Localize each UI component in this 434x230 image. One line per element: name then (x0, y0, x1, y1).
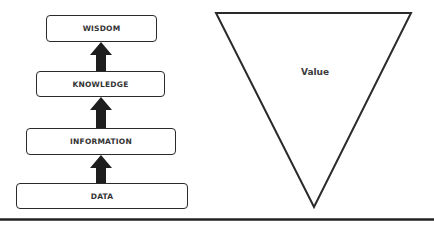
level-label: DATA (91, 192, 114, 201)
level-box-data: DATA (16, 183, 188, 209)
level-box-information: INFORMATION (26, 128, 176, 155)
arrow-up-icon (90, 42, 112, 71)
level-box-knowledge: KNOWLEDGE (36, 71, 165, 97)
level-label: WISDOM (83, 24, 121, 33)
value-label: Value (290, 67, 340, 77)
arrow-up-icon (90, 97, 112, 128)
arrow-up-icon (90, 155, 112, 183)
level-box-wisdom: WISDOM (46, 15, 157, 42)
value-triangle (216, 13, 411, 207)
level-label: INFORMATION (70, 137, 132, 146)
level-label: KNOWLEDGE (73, 80, 129, 89)
